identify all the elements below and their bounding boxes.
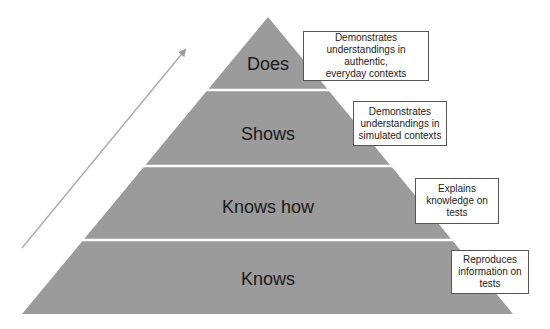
level-label-knows: Knows	[241, 269, 295, 290]
level-label-knows-how: Knows how	[222, 197, 314, 218]
description-box-knows: Reproduces information on tests	[451, 250, 529, 294]
level-label-shows: Shows	[241, 124, 295, 145]
description-box-shows: Demonstrates understandings in simulated…	[353, 101, 447, 146]
level-label-does: Does	[247, 54, 289, 75]
description-text-knows-how: Explains knowledge on tests	[426, 183, 488, 219]
pyramid-diagram: Does Shows Knows how Knows Demonstrates …	[0, 0, 550, 329]
description-text-shows: Demonstrates understandings in simulated…	[359, 106, 442, 142]
description-text-knows: Reproduces information on tests	[458, 254, 521, 290]
description-box-does: Demonstrates understandings in authentic…	[303, 31, 429, 81]
description-text-does: Demonstrates understandings in authentic…	[308, 32, 424, 80]
description-box-knows-how: Explains knowledge on tests	[415, 178, 499, 224]
